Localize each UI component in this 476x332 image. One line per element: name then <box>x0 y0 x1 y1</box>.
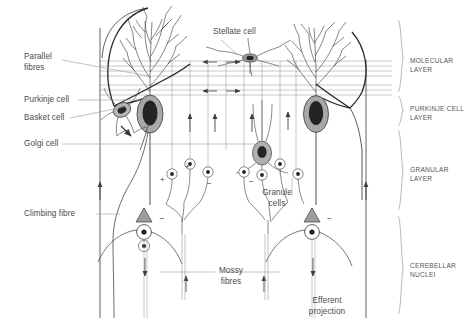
cerebellum-diagram: Parallel fibres Purkinje cell Basket cel… <box>0 0 476 332</box>
layer-label-cerebellar-nuclei: CEREBELLAR NUCLEI <box>410 262 456 279</box>
sign-mark-purkinje-terminal-right: − <box>327 215 332 223</box>
golgi-cell-nucleus <box>257 146 266 158</box>
label-granule-cells: Granule cells <box>255 188 299 209</box>
sign-mark-golgi-inhibitory-left: − <box>207 180 212 188</box>
label-purkinje-cell: Purkinje cell <box>24 95 69 106</box>
sign-mark-granule-excitatory-mid: + <box>185 163 190 171</box>
sign-mark-granule-excitatory-left: + <box>160 176 165 184</box>
golgi-cell-dendrites <box>253 100 272 141</box>
label-parallel-fibres: Parallel fibres <box>24 52 52 73</box>
layer-label-molecular: MOLECULAR LAYER <box>410 57 453 74</box>
purkinje-nucleus-left <box>143 101 158 126</box>
purkinje-terminal-left <box>136 208 152 222</box>
label-mossy-fibres: Mossy fibres <box>213 266 249 287</box>
ascending-axon-arrows <box>100 112 366 292</box>
bracket-molecular <box>398 20 403 92</box>
basket-cell-axon-arrow <box>121 126 131 136</box>
label-climbing-fibre: Climbing fibre <box>24 209 75 220</box>
layer-label-purkinje: PURKINJE CELL LAYER <box>410 105 464 122</box>
purkinje-nucleus-right <box>309 101 323 125</box>
stellate-cell-nucleus <box>246 56 253 60</box>
bracket-purkinje <box>398 96 403 126</box>
bracket-nuclei <box>398 216 403 314</box>
folium-edge-right <box>350 108 362 200</box>
label-basket-cell: Basket cell <box>24 113 64 124</box>
label-efferent-projection: Efferent projection <box>295 296 359 317</box>
granule-axon-columns <box>172 61 296 175</box>
layer-label-granular: GRANULAR LAYER <box>410 166 449 183</box>
sign-mark-purkinje-terminal-left: − <box>160 215 165 223</box>
purkinje-arbor-envelope-right <box>316 32 366 108</box>
parallel-fibre-direction-arrows <box>203 62 240 91</box>
stellate-cell <box>206 38 291 76</box>
label-stellate-cell: Stellate cell <box>213 27 256 38</box>
nucleus-neuron-nucleus-left <box>141 229 146 234</box>
purkinje-dendrite-left <box>120 6 187 108</box>
nucleus-neuron-nucleus-right <box>309 229 314 234</box>
layer-brackets <box>398 20 403 314</box>
parallel-fibre-bands <box>100 61 392 95</box>
purkinje-terminal-right <box>304 208 320 222</box>
bracket-granular <box>398 130 403 210</box>
label-golgi-cell: Golgi cell <box>24 139 58 150</box>
cerebellar-nucleus-neuron-left <box>98 208 182 318</box>
sign-mark-golgi-inhibitory-right: − <box>249 178 254 186</box>
